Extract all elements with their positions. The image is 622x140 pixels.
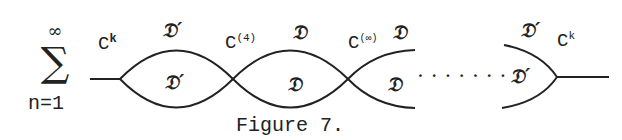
d-top-3: 𝔇 [392,20,407,44]
c-k-left-label: Ck [98,32,117,55]
sum-symbol: ∑ [33,40,77,84]
lens3-top-arc [348,50,415,79]
d-top-2: 𝔇 [292,20,307,44]
d-prime-bottom-right: 𝔇′ [510,64,530,88]
d-prime-top-right: 𝔇′ [520,18,540,42]
c-k-right-label: Ck [557,30,575,52]
d-bottom-3: 𝔇 [387,72,402,96]
sum-upper-limit: ∞ [35,20,75,41]
d-prime-top-1: 𝔇′ [162,18,182,42]
figure-caption: Figure 7. [236,114,344,137]
d-bottom-2: 𝔇 [287,72,302,96]
lens3-bottom-arc [348,79,415,108]
sum-lower-limit: n=1 [16,92,76,115]
c-4-label: C(4) [225,32,256,54]
d-prime-bottom-1: 𝔇′ [164,70,184,94]
continuation-dots: · · · · · · · [418,68,507,84]
c-inf-label: C(∞) [348,32,377,54]
